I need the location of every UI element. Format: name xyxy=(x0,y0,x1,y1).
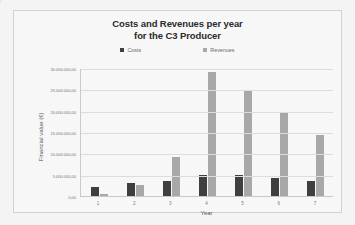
bar-revenues-year-1[interactable] xyxy=(100,194,108,196)
bar-costs-year-3[interactable] xyxy=(163,181,171,196)
y-axis-tick-label: 30.000.000,00 xyxy=(51,67,76,72)
bar-revenues-year-2[interactable] xyxy=(136,185,144,196)
bar-costs-year-5[interactable] xyxy=(235,175,243,196)
chart-title: Costs and Revenues per year for the C3 P… xyxy=(14,11,341,42)
x-axis-tick-label: 6 xyxy=(261,201,297,206)
x-axis-label: Year xyxy=(80,210,333,216)
gridline xyxy=(81,90,333,91)
x-axis-tick-label: 3 xyxy=(152,201,188,206)
x-axis-tick-label: 2 xyxy=(116,201,152,206)
y-axis-tick-label: 25.000.000,00 xyxy=(51,88,76,93)
gridline xyxy=(81,133,333,134)
bar-revenues-year-5[interactable] xyxy=(244,91,252,196)
bar-costs-year-1[interactable] xyxy=(91,187,99,196)
legend-swatch-icon-costs xyxy=(120,48,124,52)
y-axis-tick-label: 15.000.000,00 xyxy=(51,131,76,136)
gridline xyxy=(81,112,333,113)
legend-label-costs: Costs xyxy=(127,47,141,53)
chart-legend: Costs Revenues xyxy=(14,47,341,53)
chart-title-line-2: for the C3 Producer xyxy=(14,30,341,42)
x-axis-tick-label: 7 xyxy=(297,201,333,206)
y-axis-ticks: 0,005.000.000,0010.000.000,0015.000.000,… xyxy=(28,69,78,197)
legend-item-costs[interactable]: Costs xyxy=(120,47,141,53)
y-axis-tick-label: 10.000.000,00 xyxy=(51,152,76,157)
chart-container: Costs and Revenues per year for the C3 P… xyxy=(13,10,342,213)
bar-costs-year-2[interactable] xyxy=(127,183,135,196)
bar-revenues-year-7[interactable] xyxy=(316,135,324,196)
x-axis-tick-label: 1 xyxy=(80,201,116,206)
bar-costs-year-6[interactable] xyxy=(271,178,279,196)
legend-item-revenues[interactable]: Revenues xyxy=(203,47,234,53)
plot-wrapper: Financial value (€) 0,005.000.000,0010.0… xyxy=(14,61,341,212)
y-axis-tick-label: 20.000.000,00 xyxy=(51,109,76,114)
legend-swatch-icon-revenues xyxy=(203,48,207,52)
plot-area xyxy=(80,69,333,197)
gridline xyxy=(81,176,333,177)
x-axis-ticks: 1234567 xyxy=(80,201,333,206)
gridline xyxy=(81,154,333,155)
bar-costs-year-4[interactable] xyxy=(199,175,207,196)
y-axis-tick-label: 5.000.000,00 xyxy=(53,173,76,178)
gridline xyxy=(81,69,333,70)
y-axis-tick-label: 0,00 xyxy=(68,195,76,200)
legend-label-revenues: Revenues xyxy=(210,47,234,53)
chart-title-line-1: Costs and Revenues per year xyxy=(14,18,341,30)
x-axis-tick-label: 4 xyxy=(188,201,224,206)
bar-costs-year-7[interactable] xyxy=(307,181,315,196)
x-axis-tick-label: 5 xyxy=(225,201,261,206)
